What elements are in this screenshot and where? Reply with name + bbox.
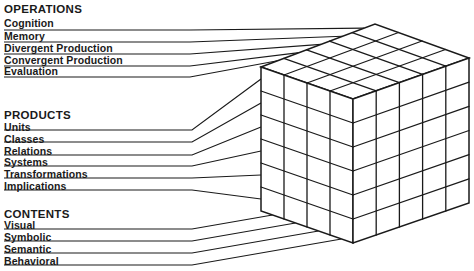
operation-label-memory: Memory — [4, 31, 45, 42]
products-header: PRODUCTS — [4, 110, 71, 121]
structure-of-intellect-cube — [0, 0, 474, 271]
operation-label-evaluation: Evaluation — [4, 66, 58, 77]
product-label-implications: Implications — [4, 181, 66, 192]
content-label-behavioral: Behavioral — [4, 256, 59, 267]
operations-header: OPERATIONS — [4, 4, 82, 15]
content-label-visual: Visual — [4, 220, 35, 231]
product-leader-line — [4, 79, 261, 130]
product-label-units: Units — [4, 122, 31, 133]
product-label-systems: Systems — [4, 157, 48, 168]
operation-label-divergent-production: Divergent Production — [4, 43, 113, 54]
content-label-semantic: Semantic — [4, 244, 52, 255]
operation-leader-line — [4, 28, 364, 30]
product-label-classes: Classes — [4, 134, 44, 145]
operation-label-cognition: Cognition — [4, 18, 54, 29]
content-label-symbolic: Symbolic — [4, 232, 51, 243]
product-label-transformations: Transformations — [4, 169, 88, 180]
